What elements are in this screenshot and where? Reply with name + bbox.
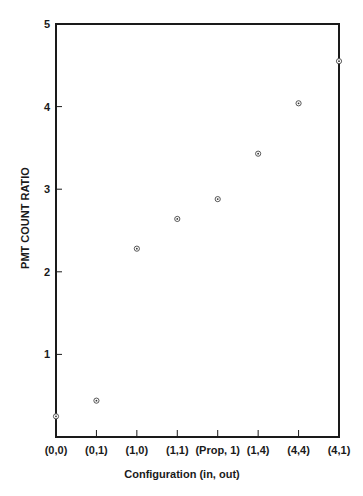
y-tick-label: 4 bbox=[44, 101, 51, 113]
x-tick-label: (1,4) bbox=[247, 444, 270, 456]
x-axis-label: Configuration (in, out) bbox=[124, 468, 240, 480]
x-tick-label: (4,1) bbox=[328, 444, 351, 456]
point-center-dot bbox=[257, 153, 259, 155]
data-point bbox=[215, 197, 220, 202]
x-tick-label: (0,0) bbox=[45, 444, 68, 456]
scatter-chart: PMT COUNT RATIO 12345 (0,0)(0,1)(1,0)(1,… bbox=[0, 0, 363, 496]
point-center-dot bbox=[96, 400, 98, 402]
point-center-dot bbox=[55, 415, 57, 417]
point-center-dot bbox=[176, 218, 178, 220]
data-point bbox=[256, 151, 261, 156]
y-tick-label: 2 bbox=[44, 266, 50, 278]
y-axis-label: PMT COUNT RATIO bbox=[19, 167, 31, 269]
data-point bbox=[296, 101, 301, 106]
y-tick-label: 3 bbox=[44, 183, 50, 195]
point-center-dot bbox=[217, 198, 219, 200]
x-tick-label: (Prop, 1) bbox=[195, 444, 240, 456]
point-center-dot bbox=[298, 102, 300, 104]
x-tick-label: (1,0) bbox=[126, 444, 149, 456]
point-center-dot bbox=[338, 60, 340, 62]
data-point bbox=[336, 59, 341, 64]
plot-frame bbox=[56, 24, 339, 437]
x-ticks: (0,0)(0,1)(1,0)(1,1)(Prop, 1)(1,4)(4,4)(… bbox=[45, 430, 351, 456]
y-tick-label: 5 bbox=[44, 18, 50, 30]
y-axis-label-group: PMT COUNT RATIO bbox=[19, 167, 31, 269]
data-point bbox=[175, 216, 180, 221]
data-points bbox=[53, 59, 341, 419]
y-tick-label: 1 bbox=[44, 348, 50, 360]
x-tick-label: (4,4) bbox=[287, 444, 310, 456]
x-tick-label: (0,1) bbox=[85, 444, 108, 456]
data-point bbox=[134, 246, 139, 251]
data-point bbox=[53, 414, 58, 419]
y-ticks: 12345 bbox=[44, 18, 62, 360]
point-center-dot bbox=[136, 248, 138, 250]
data-point bbox=[94, 398, 99, 403]
x-tick-label: (1,1) bbox=[166, 444, 189, 456]
